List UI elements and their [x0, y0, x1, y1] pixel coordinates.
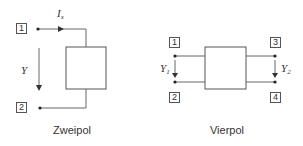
- vierpol-terminal-label-2: 2: [169, 92, 180, 103]
- vierpol-diagram: [172, 47, 278, 89]
- y1-label-sub: 1: [166, 68, 170, 76]
- y1-arrow-icon: [172, 73, 178, 78]
- admittance-label-base: Y: [21, 64, 27, 76]
- zweipol-diagram: [36, 26, 106, 110]
- vierpol-terminal-dot-2: [173, 80, 176, 83]
- vierpol-terminal-label-3: 3: [270, 37, 281, 48]
- y2-arrow-icon: [272, 73, 278, 78]
- vierpol-terminal-label-1: 1: [169, 37, 180, 48]
- terminal-dot-2: [38, 106, 41, 109]
- admittance-arrow-icon: [36, 85, 42, 91]
- y1-label: Y1: [160, 63, 170, 78]
- current-label-sub: x: [61, 13, 64, 21]
- terminal-label-2: 2: [16, 102, 27, 113]
- vierpol-terminal-label-4: 4: [270, 92, 281, 103]
- vierpol-caption: Vierpol: [187, 124, 267, 136]
- vierpol-terminal-dot-1: [173, 54, 176, 57]
- vierpol-terminal-dot-3: [273, 54, 276, 57]
- terminal-dot-1: [36, 27, 39, 30]
- y2-label-sub: 2: [287, 68, 291, 76]
- zweipol-element-box: [66, 47, 106, 89]
- figure-two-port-comparison: 1 2 Ix Y Zweipol 1 2 3 4 Y1 Y2 Vierpol: [0, 0, 303, 146]
- zweipol-caption: Zweipol: [32, 124, 112, 136]
- y2-label: Y2: [281, 63, 291, 78]
- current-arrow-icon: [58, 26, 64, 32]
- vierpol-element-box: [205, 47, 246, 89]
- current-label: Ix: [57, 8, 64, 23]
- admittance-label: Y: [21, 65, 27, 76]
- terminal-label-1: 1: [16, 23, 27, 34]
- vierpol-terminal-dot-4: [273, 80, 276, 83]
